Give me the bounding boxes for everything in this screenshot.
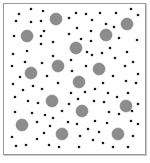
small-particle: [112, 146, 115, 149]
small-particle: [68, 17, 71, 20]
small-particle: [87, 128, 90, 131]
large-particle: [93, 63, 105, 75]
small-particle: [12, 53, 15, 56]
small-particle: [94, 120, 97, 123]
small-particle: [19, 76, 22, 79]
small-particle: [135, 82, 138, 85]
small-particle: [11, 136, 14, 139]
small-particle: [80, 38, 83, 41]
large-particle: [50, 13, 62, 25]
small-particle: [126, 51, 129, 54]
large-particle: [56, 128, 68, 140]
small-particle: [91, 19, 94, 22]
small-particle: [99, 12, 102, 15]
small-particle: [44, 114, 47, 117]
small-particle: [61, 110, 64, 113]
small-particle: [137, 14, 140, 17]
small-particle: [49, 125, 52, 128]
small-particle: [43, 30, 46, 33]
small-particle: [109, 47, 112, 50]
small-particle: [68, 33, 71, 36]
small-particle: [40, 35, 43, 38]
small-particle: [27, 100, 30, 103]
small-particle: [132, 61, 135, 64]
small-particle: [31, 112, 34, 115]
small-particle: [78, 146, 81, 149]
small-particle: [137, 103, 140, 106]
small-particle: [114, 57, 117, 60]
small-particle: [76, 123, 79, 126]
small-particle: [40, 43, 43, 46]
large-particle: [120, 100, 132, 112]
small-particle: [98, 131, 101, 134]
small-particle: [106, 122, 109, 125]
large-particle: [25, 67, 37, 79]
small-particle: [85, 65, 88, 68]
small-particle: [130, 120, 133, 123]
small-particle: [25, 144, 28, 147]
small-particle: [130, 8, 133, 11]
small-particle: [70, 59, 73, 62]
small-particle: [22, 89, 25, 92]
small-particle: [12, 83, 15, 86]
small-particle: [46, 75, 49, 78]
small-particle: [77, 98, 80, 101]
small-particle: [48, 144, 51, 147]
small-particle: [90, 40, 93, 43]
large-particle: [21, 30, 33, 42]
large-particle: [16, 119, 28, 131]
small-particle: [137, 73, 140, 76]
small-particle: [136, 39, 139, 42]
small-particle: [125, 80, 128, 83]
large-particle: [112, 128, 124, 140]
small-particle: [92, 139, 95, 142]
small-particle: [91, 54, 94, 57]
small-particle: [32, 85, 35, 88]
small-particle: [70, 92, 73, 95]
small-particle: [68, 103, 71, 106]
small-particle: [107, 92, 110, 95]
small-particle: [102, 82, 105, 85]
small-particle: [14, 111, 17, 114]
small-particle: [132, 135, 135, 138]
small-particle: [71, 70, 74, 73]
particle-canvas: [0, 0, 150, 163]
small-particle: [30, 21, 33, 24]
small-particle: [85, 13, 88, 16]
small-particle: [30, 8, 33, 11]
large-particle: [46, 95, 58, 107]
large-particle: [100, 29, 112, 41]
small-particle: [94, 88, 97, 91]
small-particle: [24, 61, 27, 64]
small-particle: [41, 62, 44, 65]
small-particle: [79, 135, 82, 138]
small-particle: [86, 51, 89, 54]
small-particle: [26, 50, 29, 53]
small-particle: [11, 65, 14, 68]
small-particle: [108, 111, 111, 114]
small-particle: [101, 52, 104, 55]
small-particle: [52, 117, 55, 120]
small-particle: [15, 20, 18, 23]
small-particle: [124, 65, 127, 68]
small-particle: [52, 55, 55, 58]
small-particle: [127, 146, 130, 149]
large-particle: [70, 42, 82, 54]
large-particle: [52, 60, 64, 72]
small-particle: [131, 110, 134, 113]
small-particle: [127, 92, 130, 95]
small-particle: [37, 102, 40, 105]
small-particle: [57, 82, 60, 85]
small-particle: [118, 113, 121, 116]
small-particle: [40, 20, 43, 23]
small-particle: [41, 88, 44, 91]
small-particle: [58, 146, 61, 149]
small-particle: [13, 35, 16, 38]
small-particle: [15, 145, 18, 148]
small-particle: [118, 37, 121, 40]
small-particle: [76, 27, 79, 30]
small-particle: [103, 101, 106, 104]
small-particle: [84, 91, 87, 94]
small-particle: [36, 138, 39, 141]
small-particle: [102, 142, 105, 145]
